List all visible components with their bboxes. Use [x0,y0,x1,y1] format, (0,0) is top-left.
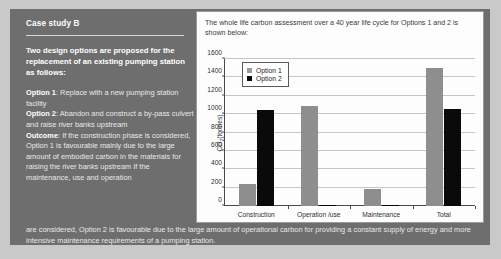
x-tick-mark [288,206,289,209]
y-tick-label: 0 [218,196,222,203]
legend-label: Option 1 [256,67,282,74]
bar-option-1[interactable] [426,68,443,206]
legend-item[interactable]: Option 2 [247,75,282,82]
spacer [26,78,194,88]
legend-swatch [247,68,252,73]
y-tick-label: 1400 [207,67,222,74]
bar-option-2[interactable] [257,110,274,206]
outcome-paragraph: Outcome: If the construction phase is co… [26,131,194,184]
bar-group: Total [413,59,476,206]
lead-paragraph: Two design options are proposed for the … [26,45,194,79]
x-tick-label: Total [413,211,476,218]
y-tick-label: 200 [211,177,222,184]
option1-paragraph: Option 1: Replace with a new pumping sta… [26,88,194,109]
title-divider [26,35,184,36]
bars [350,59,413,206]
bar-option-1[interactable] [239,184,256,206]
y-tick-label: 1600 [207,49,222,56]
x-tick-label: Construction [225,211,288,218]
option2-label: Option 2 [26,109,56,118]
x-tick-mark [413,206,414,209]
bar-option-2[interactable] [319,205,336,206]
x-tick-label: Operation /use [288,211,351,218]
chart-legend: Option 1Option 2 [242,62,289,87]
option2-paragraph: Option 2: Abandon and construct a by-pas… [26,109,194,130]
chart-plot: 02004006008001000120014001600 Constructi… [224,59,475,206]
bar-group: Operation /use [288,59,351,206]
y-tick-label: 400 [211,159,222,166]
bar-option-1[interactable] [364,189,381,206]
legend-label: Option 2 [256,75,282,82]
bar-option-2[interactable] [382,205,399,206]
bar-option-1[interactable] [301,106,318,206]
chart-caption: The whole life carbon assessment over a … [205,18,477,38]
chart-panel: The whole life carbon assessment over a … [196,11,484,223]
bars [413,59,476,206]
x-tick-label: Maintenance [350,211,413,218]
y-axis-title-suffix: (tonnes) [216,114,223,138]
slide-root: Case study B Two design options are prop… [0,0,501,259]
legend-swatch [247,76,252,81]
y-axis-title: CO2(tonnes) [216,114,225,151]
x-tick-mark [475,206,476,209]
legend-item[interactable]: Option 1 [247,67,282,74]
case-study-panel: Case study B Two design options are prop… [10,9,490,245]
bar-option-2[interactable] [444,109,461,206]
y-tick-label: 1200 [207,85,222,92]
outcome-label: Outcome [26,131,58,140]
bottom-paragraph: are considered, Option 2 is favourable d… [26,225,488,246]
x-tick-mark [350,206,351,209]
bars [288,59,351,206]
bar-group: Maintenance [350,59,413,206]
left-text-column: Case study B Two design options are prop… [26,19,194,184]
y-axis-title-prefix: CO [216,141,223,151]
case-study-title: Case study B [26,19,194,30]
option1-label: Option 1 [26,88,56,97]
y-tick-label: 1000 [207,104,222,111]
